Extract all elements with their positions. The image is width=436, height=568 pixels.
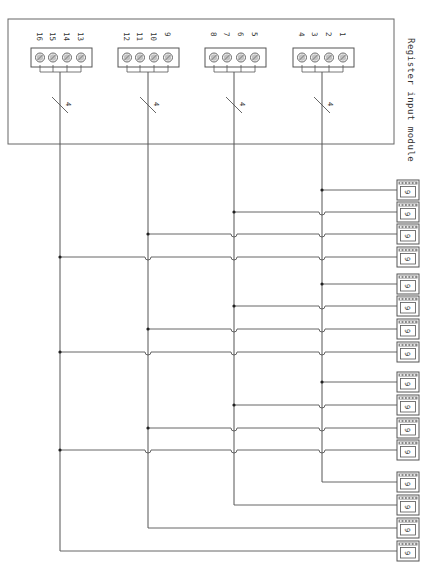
device-label: 9 bbox=[403, 382, 411, 386]
device-wire-8 bbox=[60, 352, 397, 355]
terminal-screw-5 bbox=[251, 53, 260, 62]
device-label: 9 bbox=[403, 482, 411, 486]
junction-dot bbox=[232, 304, 235, 307]
bus-count-label: 4 bbox=[326, 102, 334, 106]
terminal-label-3: 3 bbox=[310, 32, 319, 37]
device-label: 9 bbox=[403, 551, 411, 555]
junction-dot bbox=[232, 210, 235, 213]
terminal-label-6: 6 bbox=[236, 32, 245, 37]
terminal-screw-10 bbox=[150, 53, 159, 62]
terminal-screw-7 bbox=[223, 53, 232, 62]
device-label: 9 bbox=[403, 257, 411, 261]
device-wire-7 bbox=[148, 329, 397, 332]
input-device-4[interactable]: 9 bbox=[397, 247, 419, 267]
input-device-1[interactable]: 9 bbox=[397, 180, 419, 200]
input-device-16[interactable]: 9 bbox=[397, 541, 419, 561]
device-wire-4 bbox=[60, 257, 397, 260]
terminal-label-8: 8 bbox=[209, 32, 218, 37]
terminal-label-4: 4 bbox=[297, 32, 306, 37]
junction-dot bbox=[320, 380, 323, 383]
device-label: 9 bbox=[403, 528, 411, 532]
junction-dot bbox=[146, 232, 149, 235]
terminal-screw-6 bbox=[237, 53, 246, 62]
input-device-14[interactable]: 9 bbox=[397, 495, 419, 515]
input-device-10[interactable]: 9 bbox=[397, 395, 419, 415]
device-label: 9 bbox=[403, 284, 411, 288]
terminal-screw-13 bbox=[77, 53, 86, 62]
bus-count-label: 4 bbox=[152, 102, 160, 106]
device-wire-2 bbox=[234, 212, 397, 215]
input-device-5[interactable]: 9 bbox=[397, 274, 419, 294]
junction-dot bbox=[146, 327, 149, 330]
terminal-screw-11 bbox=[136, 53, 145, 62]
terminal-block-4: 161514134 bbox=[31, 32, 92, 113]
terminal-screw-16 bbox=[36, 53, 45, 62]
terminal-screw-2 bbox=[325, 53, 334, 62]
device-label: 9 bbox=[403, 190, 411, 194]
junction-dot bbox=[58, 350, 61, 353]
input-device-11[interactable]: 9 bbox=[397, 418, 419, 438]
device-label: 9 bbox=[403, 306, 411, 310]
device-label: 9 bbox=[403, 450, 411, 454]
terminal-blocks: 432148765412111094161514134 bbox=[31, 32, 354, 113]
module-title-text: Register input module bbox=[406, 38, 416, 162]
terminal-screw-15 bbox=[49, 53, 58, 62]
module-title: Register input module bbox=[406, 38, 416, 162]
junction-dot bbox=[58, 255, 61, 258]
junction-dot bbox=[320, 188, 323, 191]
terminal-label-1: 1 bbox=[338, 32, 347, 37]
terminal-screw-4 bbox=[298, 53, 307, 62]
device-wire-10 bbox=[234, 405, 397, 408]
input-devices: 9999999999999999 bbox=[397, 180, 419, 561]
input-device-3[interactable]: 9 bbox=[397, 224, 419, 244]
terminal-label-10: 10 bbox=[149, 32, 158, 42]
junction-dot bbox=[146, 426, 149, 429]
device-label: 9 bbox=[403, 212, 411, 216]
device-wire-6 bbox=[234, 306, 397, 309]
wiring-diagram: Register input module 432148765412111094… bbox=[0, 0, 436, 568]
terminal-block-1: 43214 bbox=[293, 32, 354, 113]
terminal-label-11: 11 bbox=[135, 32, 144, 41]
terminal-screw-1 bbox=[339, 53, 348, 62]
device-label: 9 bbox=[403, 428, 411, 432]
junction-dot bbox=[320, 282, 323, 285]
input-device-8[interactable]: 9 bbox=[397, 342, 419, 362]
terminal-label-7: 7 bbox=[222, 32, 231, 37]
junction-dot bbox=[232, 403, 235, 406]
device-label: 9 bbox=[403, 505, 411, 509]
terminal-screw-14 bbox=[63, 53, 72, 62]
terminal-block-2: 87654 bbox=[205, 32, 266, 113]
device-label: 9 bbox=[403, 352, 411, 356]
terminal-label-13: 13 bbox=[76, 32, 85, 41]
terminal-label-9: 9 bbox=[163, 32, 172, 37]
device-wire-3 bbox=[148, 234, 397, 237]
device-label: 9 bbox=[403, 405, 411, 409]
terminal-label-12: 12 bbox=[122, 32, 131, 41]
bus-count-label: 4 bbox=[238, 102, 246, 106]
device-wire-12 bbox=[60, 450, 397, 453]
device-label: 9 bbox=[403, 329, 411, 333]
input-device-13[interactable]: 9 bbox=[397, 472, 419, 492]
junction-dot bbox=[58, 448, 61, 451]
device-label: 9 bbox=[403, 234, 411, 238]
terminal-label-14: 14 bbox=[62, 32, 71, 42]
input-device-9[interactable]: 9 bbox=[397, 372, 419, 392]
device-wire-11 bbox=[148, 428, 397, 431]
terminal-label-15: 15 bbox=[48, 32, 57, 41]
input-device-6[interactable]: 9 bbox=[397, 296, 419, 316]
terminal-label-2: 2 bbox=[324, 32, 333, 37]
bus-count-label: 4 bbox=[64, 102, 72, 106]
terminal-screw-12 bbox=[123, 53, 132, 62]
input-device-15[interactable]: 9 bbox=[397, 518, 419, 538]
terminal-screw-3 bbox=[311, 53, 320, 62]
terminal-label-16: 16 bbox=[35, 32, 44, 42]
terminal-screw-8 bbox=[210, 53, 219, 62]
input-device-7[interactable]: 9 bbox=[397, 319, 419, 339]
input-device-2[interactable]: 9 bbox=[397, 202, 419, 222]
terminal-screw-9 bbox=[164, 53, 173, 62]
input-device-12[interactable]: 9 bbox=[397, 440, 419, 460]
terminal-label-5: 5 bbox=[250, 32, 259, 37]
